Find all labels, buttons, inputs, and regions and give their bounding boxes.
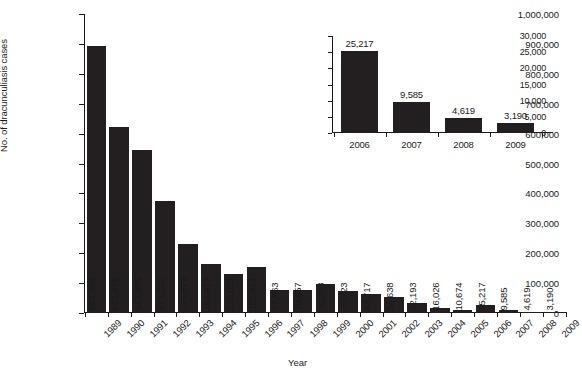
- x-axis-category-label: 2006: [492, 318, 513, 339]
- inset-chart-y-tick-label: 20,000: [520, 63, 546, 73]
- bar[interactable]: 54,638: [384, 297, 404, 313]
- bar[interactable]: 3,190: [497, 123, 534, 133]
- main-chart-x-tick-mark: [497, 313, 498, 317]
- bar-value-label: 152,814: [247, 277, 257, 310]
- main-chart-x-tick-mark: [337, 313, 338, 317]
- main-chart-y-tick-mark: [79, 134, 84, 135]
- x-axis-category-label: 2009: [560, 318, 581, 339]
- main-chart-x-tick-mark: [520, 313, 521, 317]
- main-chart-x-tick-mark: [199, 313, 200, 317]
- main-chart-y-tick-label: 400,000: [525, 188, 559, 199]
- inset-chart-y-tick-mark: [328, 133, 332, 134]
- bar-value-label: 10,674: [453, 282, 463, 310]
- main-chart-y-tick-label: 500,000: [525, 158, 559, 169]
- bar-value-label: 25,217: [476, 282, 486, 310]
- x-axis-category-label: 2004: [446, 318, 467, 339]
- main-chart-y-tick-mark: [79, 164, 84, 165]
- bar-value-label: 229,773: [178, 277, 188, 310]
- bar-value-label: 16,026: [430, 282, 440, 310]
- inset-chart-y-tick-mark: [328, 68, 332, 69]
- main-chart-y-tick-mark: [79, 104, 84, 105]
- main-chart-x-tick-mark: [108, 313, 109, 317]
- bar[interactable]: 4,619: [445, 118, 482, 133]
- bar[interactable]: 63,717: [361, 294, 381, 313]
- bar[interactable]: 25,217: [341, 51, 378, 133]
- bar-value-label: 129,852: [224, 277, 234, 310]
- main-chart-y-tick-mark: [79, 44, 84, 45]
- inset-chart-x-tick-mark: [542, 133, 543, 137]
- x-axis-category-label: 1991: [148, 318, 169, 339]
- bar-value-label: 96,293: [316, 282, 326, 310]
- bar[interactable]: 543,585: [132, 150, 152, 313]
- bar[interactable]: 16,026: [430, 308, 450, 313]
- bar-value-label: 25,217: [346, 38, 374, 49]
- inset-chart-y-tick-label: 5,000: [524, 112, 546, 122]
- bar-value-label: 164,977: [201, 277, 211, 310]
- bar[interactable]: 75,223: [338, 291, 358, 313]
- main-chart-y-tick-label: 1,000,000: [518, 9, 559, 20]
- bar[interactable]: 229,773: [178, 244, 198, 313]
- bar[interactable]: 77,863: [270, 290, 290, 313]
- bar-value-label: 78,557: [293, 282, 303, 310]
- main-chart-x-tick-mark: [543, 313, 544, 317]
- bar[interactable]: 78,557: [293, 290, 313, 313]
- bar-value-label: 3,190: [504, 110, 527, 121]
- x-axis-category-label: 1992: [171, 318, 192, 339]
- bar[interactable]: 9,585: [499, 310, 519, 313]
- x-axis-category-label: 1993: [194, 318, 215, 339]
- bar-value-label: 623,579: [110, 277, 120, 310]
- bar-value-label: 63,717: [362, 282, 372, 310]
- bar[interactable]: 164,977: [201, 264, 221, 313]
- main-chart-x-tick-mark: [131, 313, 132, 317]
- inset-chart-y-tick-mark: [328, 101, 332, 102]
- main-chart-x-tick-mark: [85, 313, 86, 317]
- bar-value-label: 9,585: [400, 89, 423, 100]
- bar[interactable]: 3,190: [545, 312, 565, 313]
- inset-chart-plot-area: 30,00025,00020,00015,00010,0005,0000 25,…: [332, 36, 553, 133]
- bar[interactable]: 32,193: [407, 303, 427, 313]
- x-axis-category-label: 1995: [240, 318, 261, 339]
- inset-chart-y-tick-label: 15,000: [520, 80, 546, 90]
- x-axis-category-label: 2007: [514, 318, 535, 339]
- x-axis-category-label: 2006: [349, 139, 369, 150]
- main-chart-y-tick-label: 0: [554, 308, 559, 319]
- main-chart-x-tick-mark: [451, 313, 452, 317]
- x-axis-category-label: 1990: [125, 318, 146, 339]
- bar-value-label: 75,223: [339, 282, 349, 310]
- main-chart-y-tick-mark: [79, 283, 84, 284]
- bar[interactable]: 892,055: [87, 46, 107, 313]
- bar-value-label: 32,193: [407, 282, 417, 310]
- inset-chart-y-tick-label: 25,000: [520, 47, 546, 57]
- main-chart-y-tick-mark: [79, 74, 84, 75]
- bar[interactable]: 4,619: [522, 312, 542, 313]
- bar[interactable]: 374,202: [155, 201, 175, 313]
- bar-value-label: 892,055: [87, 277, 97, 310]
- main-chart-x-tick-mark: [314, 313, 315, 317]
- main-chart-x-tick-mark: [176, 313, 177, 317]
- bar-value-label: 9,585: [499, 287, 509, 310]
- bar[interactable]: 10,674: [453, 310, 473, 313]
- x-axis-category-label: 2001: [377, 318, 398, 339]
- bar[interactable]: 96,293: [316, 284, 336, 313]
- bar[interactable]: 129,852: [224, 274, 244, 313]
- inset-chart-y-tick-mark: [328, 85, 332, 86]
- main-chart-x-tick-mark: [383, 313, 384, 317]
- main-chart-y-tick-label: 300,000: [525, 218, 559, 229]
- bar[interactable]: 25,217: [476, 305, 496, 313]
- x-axis-category-label: 1996: [263, 318, 284, 339]
- bar-value-label: 374,202: [155, 277, 165, 310]
- main-chart-y-tick-mark: [79, 223, 84, 224]
- main-chart-x-tick-mark: [154, 313, 155, 317]
- bar-value-label: 4,619: [522, 287, 532, 310]
- main-chart-x-tick-mark: [474, 313, 475, 317]
- main-chart-y-tick-mark: [79, 313, 84, 314]
- bar[interactable]: 623,579: [109, 127, 129, 313]
- inset-chart-y-tick-label: 30,000: [520, 31, 546, 41]
- bar[interactable]: 9,585: [393, 102, 430, 133]
- bar-value-label: 3,190: [545, 287, 555, 310]
- inset-chart-y-tick-label: 10,000: [520, 96, 546, 106]
- bar-value-label: 77,863: [270, 282, 280, 310]
- main-chart-x-tick-mark: [291, 313, 292, 317]
- bar[interactable]: 152,814: [247, 267, 267, 313]
